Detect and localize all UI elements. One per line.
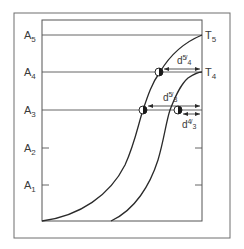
label-a2: A2 [24, 142, 36, 157]
label-a3: A3 [24, 104, 36, 119]
label-a4: A4 [24, 66, 36, 81]
marker-t5-a3 [139, 106, 147, 114]
marker-t4-a3 [174, 106, 182, 114]
label-d53: d5/3 [163, 91, 177, 103]
dimension-arrow-d53 [148, 104, 200, 108]
label-d54: d5/4 [177, 54, 191, 66]
diagram-figure: A5 A4 A3 A2 A1 T5 T4 d5/4 d5/3 d4/3 [0, 0, 244, 249]
curve-t4 [111, 72, 202, 221]
outer-frame [14, 13, 230, 238]
label-t5: T5 [205, 29, 217, 44]
dimension-arrow-d54 [164, 67, 200, 71]
label-d43: d4/3 [182, 118, 196, 130]
label-a1: A1 [24, 179, 36, 194]
marker-t5-a4 [155, 68, 163, 76]
label-a5: A5 [24, 29, 36, 44]
dimension-arrow-d43 [183, 112, 200, 116]
label-t4: T4 [205, 66, 217, 81]
